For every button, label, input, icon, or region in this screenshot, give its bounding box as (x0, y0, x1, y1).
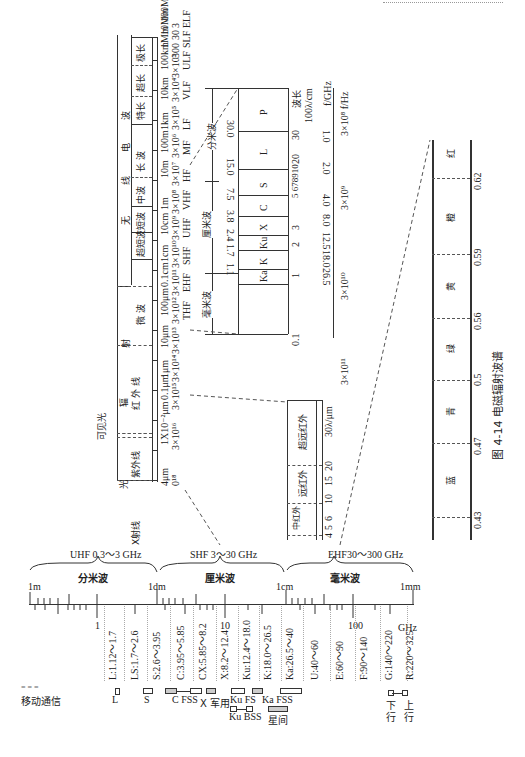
service-c-fss: C FSS (172, 694, 198, 705)
downlink-char-2: 行 (386, 709, 396, 724)
service-x-military: X 军用 (200, 695, 230, 710)
legend-mobile-comm: 移动通信 (21, 693, 61, 708)
service-ku-bss: Ku BSS (229, 711, 262, 722)
service-l: L (112, 694, 118, 705)
service-intersatellite: 星间 (268, 712, 288, 727)
service-ka-fss: Ka FSS (262, 694, 293, 705)
service-s: S (144, 694, 150, 705)
uplink-char-2: 行 (404, 709, 414, 724)
service-ku-fs: Ku FS (230, 694, 256, 705)
legend-dashes: = = = (21, 683, 39, 692)
